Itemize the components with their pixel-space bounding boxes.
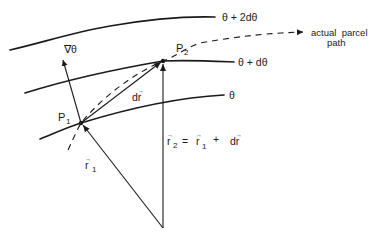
svg-text:P: P bbox=[176, 42, 183, 54]
isentrope-theta-plus-dtheta bbox=[25, 61, 234, 93]
label-gradient: ∇θ bbox=[63, 43, 77, 55]
point-p1-marker bbox=[79, 121, 83, 125]
svg-text:1: 1 bbox=[66, 117, 71, 126]
label-r1: r → 1 bbox=[85, 156, 97, 174]
svg-text:2: 2 bbox=[184, 48, 189, 57]
svg-text:→: → bbox=[167, 132, 173, 138]
svg-text:=: = bbox=[182, 135, 188, 147]
label-p2: P 2 bbox=[176, 42, 189, 57]
svg-text:→: → bbox=[138, 88, 144, 94]
gradient-vector bbox=[63, 60, 81, 123]
svg-text:→: → bbox=[85, 156, 91, 162]
svg-text:→: → bbox=[236, 132, 242, 138]
svg-text:1: 1 bbox=[92, 165, 97, 174]
svg-text:P: P bbox=[58, 111, 65, 123]
label-p1: P 1 bbox=[58, 111, 71, 126]
label-r2-equation: r → 2 = r → 1 + dr → bbox=[167, 132, 242, 151]
svg-text:+: + bbox=[213, 133, 219, 145]
position-vector-r1 bbox=[83, 125, 163, 228]
svg-text:→: → bbox=[196, 132, 202, 138]
label-dr: dr → bbox=[132, 88, 144, 103]
label-parcel-path-line2: path bbox=[327, 37, 346, 48]
svg-text:1: 1 bbox=[202, 142, 207, 151]
label-theta: θ bbox=[229, 89, 235, 101]
isentropic-displacement-diagram: θ + 2dθ θ + dθ θ actual parcel path ∇θ P… bbox=[0, 0, 392, 244]
svg-text:2: 2 bbox=[173, 141, 178, 150]
label-theta-plus-dtheta: θ + dθ bbox=[238, 56, 268, 68]
isentrope-theta-plus-2dtheta bbox=[10, 17, 215, 50]
point-p2-marker bbox=[161, 59, 165, 63]
label-theta-plus-2dtheta: θ + 2dθ bbox=[222, 11, 257, 23]
displacement-vector-dr bbox=[81, 62, 161, 123]
